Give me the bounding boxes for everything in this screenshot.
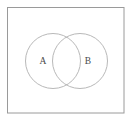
set-a-label: A (40, 56, 47, 66)
venn-diagram-figure: A B (0, 0, 133, 123)
venn-diagram-canvas: A B (0, 0, 133, 123)
universal-set-rectangle (8, 8, 125, 114)
set-b-label: B (85, 56, 91, 66)
